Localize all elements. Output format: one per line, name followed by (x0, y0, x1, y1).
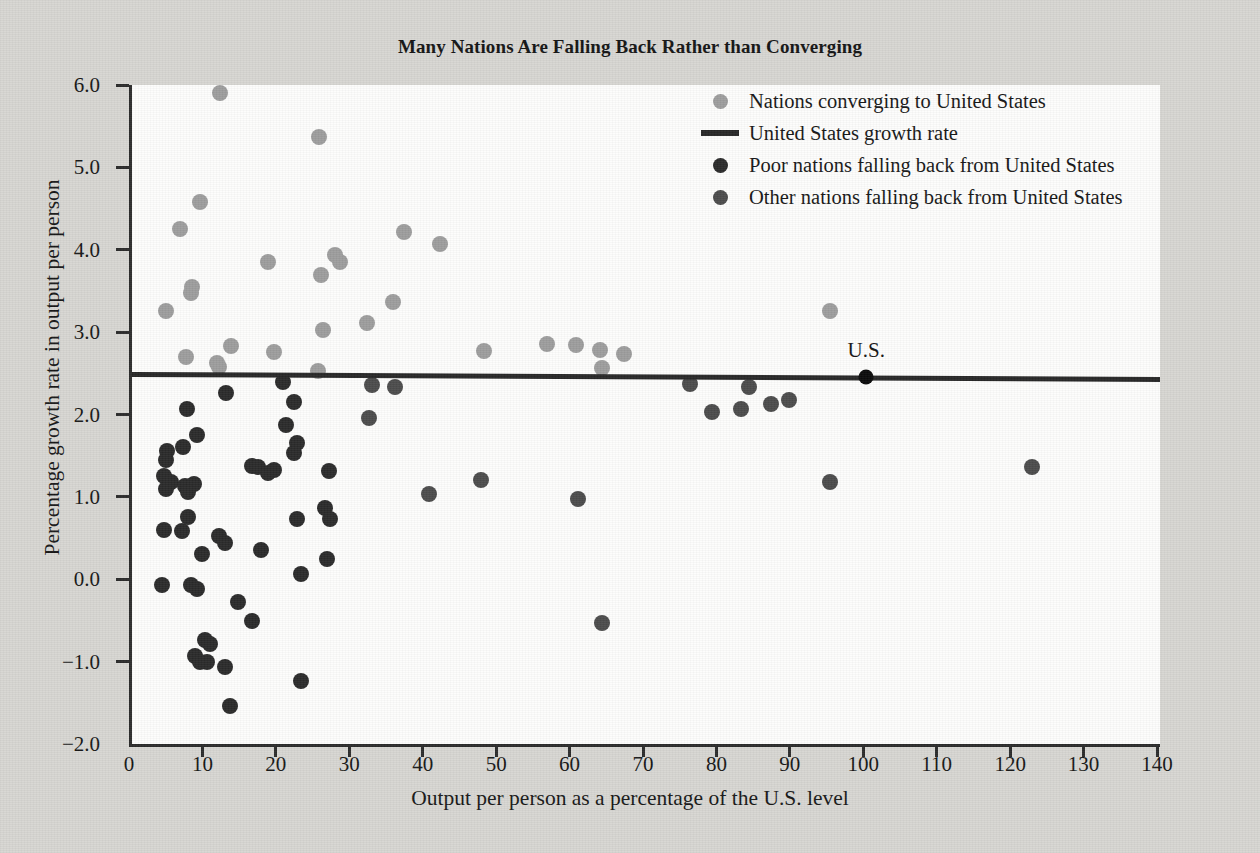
plot-frame: U.S. Nations converging to United States… (129, 85, 1160, 747)
y-tick-label: 6.0 (10, 73, 100, 98)
scatter-point (212, 85, 228, 101)
y-tick-label: −2.0 (10, 732, 100, 757)
legend-line-marker-icon (701, 130, 739, 136)
scatter-point (396, 224, 412, 240)
chart-legend: Nations converging to United StatesUnite… (697, 86, 1122, 214)
scatter-point (158, 303, 174, 319)
legend-item: United States growth rate (697, 118, 1122, 148)
x-tick-mark (421, 744, 424, 757)
scatter-point (313, 267, 329, 283)
scatter-point (364, 377, 380, 393)
y-tick-label: 4.0 (10, 237, 100, 262)
x-tick-label: 0 (99, 752, 159, 777)
scatter-point (180, 484, 196, 500)
legend-item: Nations converging to United States (697, 86, 1122, 116)
scatter-point (332, 254, 348, 270)
y-tick-label: 2.0 (10, 402, 100, 427)
scatter-point (278, 417, 294, 433)
scatter-point (174, 523, 190, 539)
scatter-point (180, 509, 196, 525)
x-tick-mark (715, 744, 718, 757)
scatter-point (266, 462, 282, 478)
scatter-point (733, 401, 749, 417)
y-tick-label: 5.0 (10, 155, 100, 180)
legend-item-label: Other nations falling back from United S… (743, 186, 1122, 209)
scatter-point (763, 396, 779, 412)
scatter-point (315, 322, 331, 338)
y-tick-label: 1.0 (10, 484, 100, 509)
scatter-point (539, 336, 555, 352)
legend-item: Poor nations falling back from United St… (697, 150, 1122, 180)
scatter-point (286, 445, 302, 461)
y-tick-mark (116, 331, 129, 334)
scatter-point (387, 379, 403, 395)
scatter-point (222, 698, 238, 714)
y-tick-mark (116, 578, 129, 581)
scatter-point (156, 522, 172, 538)
y-tick-label: −1.0 (10, 649, 100, 674)
scatter-point (158, 452, 174, 468)
x-tick-mark (788, 744, 791, 757)
scatter-point (175, 439, 191, 455)
scatter-point (189, 427, 205, 443)
legend-item-label: Nations converging to United States (743, 90, 1046, 113)
scatter-point (244, 613, 260, 629)
scatter-point (822, 303, 838, 319)
scatter-point (592, 342, 608, 358)
scatter-point (822, 474, 838, 490)
y-tick-mark (116, 248, 129, 251)
y-tick-mark (116, 84, 129, 87)
scatter-point (616, 346, 632, 362)
scatter-point (311, 129, 327, 145)
x-tick-mark (348, 744, 351, 757)
x-tick-mark (1009, 744, 1012, 757)
scatter-point (293, 673, 309, 689)
x-tick-mark (495, 744, 498, 757)
scatter-point (179, 401, 195, 417)
scatter-point (223, 338, 239, 354)
scatter-point (172, 221, 188, 237)
scatter-point (286, 394, 302, 410)
scatter-point (192, 194, 208, 210)
chart-page: Many Nations Are Falling Back Rather tha… (0, 0, 1260, 853)
x-tick-mark (642, 744, 645, 757)
scatter-point (859, 370, 874, 385)
scatter-point (154, 577, 170, 593)
legend-dot-marker-icon (713, 190, 728, 205)
scatter-point (568, 337, 584, 353)
scatter-point (570, 491, 586, 507)
scatter-point (218, 385, 234, 401)
x-axis-label: Output per person as a percentage of the… (0, 786, 1260, 811)
scatter-point (178, 349, 194, 365)
legend-item-label: United States growth rate (743, 122, 958, 145)
scatter-point (266, 344, 282, 360)
y-tick-mark (116, 495, 129, 498)
x-tick-mark (568, 744, 571, 757)
scatter-point (704, 404, 720, 420)
legend-item: Other nations falling back from United S… (697, 182, 1122, 212)
scatter-point (189, 581, 205, 597)
legend-item-label: Poor nations falling back from United St… (743, 154, 1115, 177)
x-tick-mark (274, 744, 277, 757)
scatter-point (319, 551, 335, 567)
scatter-point (202, 636, 218, 652)
x-tick-mark (1082, 744, 1085, 757)
scatter-point (199, 654, 215, 670)
scatter-point (260, 254, 276, 270)
chart-title: Many Nations Are Falling Back Rather tha… (0, 36, 1260, 58)
scatter-point (361, 410, 377, 426)
scatter-point (158, 481, 174, 497)
scatter-point (359, 315, 375, 331)
y-tick-label: 3.0 (10, 320, 100, 345)
scatter-point (432, 236, 448, 252)
scatter-point (217, 535, 233, 551)
scatter-point (476, 343, 492, 359)
scatter-point (230, 594, 246, 610)
scatter-point (321, 463, 337, 479)
x-tick-mark (862, 744, 865, 757)
x-tick-mark (1156, 744, 1159, 757)
scatter-point (385, 294, 401, 310)
y-tick-mark (116, 660, 129, 663)
scatter-point (594, 360, 610, 376)
scatter-point (293, 566, 309, 582)
